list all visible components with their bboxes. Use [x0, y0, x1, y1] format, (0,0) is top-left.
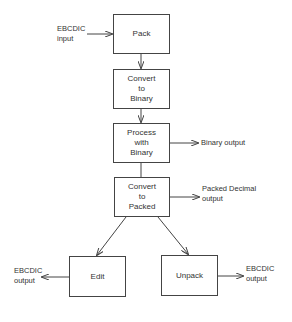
node-convert-to-packed: Convert to Packed — [114, 177, 170, 217]
flowchart-canvas: Pack Convert to Binary Process with Bina… — [0, 0, 292, 322]
label-line: output — [246, 274, 274, 284]
node-line: to — [139, 192, 146, 202]
node-line: Convert — [127, 74, 155, 84]
node-line: Binary — [130, 94, 153, 104]
label-line: input — [57, 34, 85, 44]
node-line: Process — [127, 128, 156, 138]
node-unpack: Unpack — [161, 255, 218, 296]
label-line: output — [202, 194, 256, 204]
node-line: Binary — [130, 148, 153, 158]
label-binary-output: Binary output — [201, 138, 245, 148]
label-edit-ebcdic-output: EBCDIC output — [14, 266, 42, 286]
label-packed-decimal-output: Packed Decimal output — [202, 184, 256, 204]
node-line: Convert — [128, 182, 156, 192]
arrow-convert-packed-to-unpack — [158, 217, 188, 254]
node-line: to — [138, 84, 145, 94]
node-process-with-binary: Process with Binary — [113, 123, 170, 163]
node-edit: Edit — [69, 256, 126, 297]
label-line: EBCDIC — [14, 266, 42, 276]
node-edit-label: Edit — [91, 272, 105, 282]
label-line: output — [14, 276, 42, 286]
node-convert-to-binary: Convert to Binary — [113, 69, 170, 109]
node-pack: Pack — [113, 14, 170, 54]
node-unpack-label: Unpack — [176, 271, 203, 281]
label-ebcdic-input: EBCDIC input — [57, 24, 85, 44]
label-line: EBCDIC — [57, 24, 85, 34]
label-line: Packed Decimal — [202, 184, 256, 194]
label-line: EBCDIC — [246, 264, 274, 274]
label-unpack-ebcdic-output: EBCDIC output — [246, 264, 274, 284]
arrow-convert-packed-to-edit — [97, 217, 126, 255]
node-line: with — [134, 138, 148, 148]
label-line: Binary output — [201, 138, 245, 148]
node-line: Packed — [129, 202, 156, 212]
node-pack-label: Pack — [133, 29, 151, 39]
